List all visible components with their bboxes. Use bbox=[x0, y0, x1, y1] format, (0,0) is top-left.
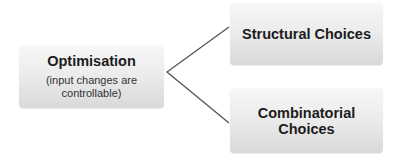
optimisation-box: Optimisation (input changes are controll… bbox=[19, 45, 164, 108]
combinatorial-line-1: Combinatorial bbox=[258, 105, 355, 121]
combinatorial-choices-title: Combinatorial Choices bbox=[258, 105, 355, 137]
structural-choices-title: Structural Choices bbox=[242, 26, 371, 42]
optimisation-subtitle: (input changes are controllable) bbox=[46, 74, 137, 100]
combinatorial-choices-box: Combinatorial Choices bbox=[230, 88, 383, 153]
subtitle-line-1: (input changes are bbox=[46, 74, 137, 86]
optimisation-title: Optimisation bbox=[47, 53, 136, 69]
combinatorial-line-2: Choices bbox=[278, 121, 334, 137]
structural-choices-box: Structural Choices bbox=[230, 3, 383, 65]
subtitle-line-2: controllable) bbox=[62, 87, 122, 99]
